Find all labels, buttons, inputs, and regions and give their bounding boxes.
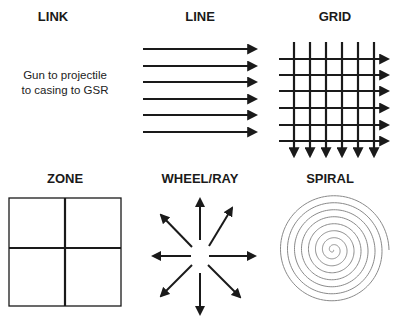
line-arrows bbox=[143, 49, 256, 132]
wheel-rays bbox=[153, 199, 255, 314]
diagram-canvas bbox=[0, 0, 403, 322]
spiral-curve bbox=[280, 196, 389, 301]
grid-arrows bbox=[279, 42, 388, 156]
zone-box bbox=[9, 198, 121, 306]
